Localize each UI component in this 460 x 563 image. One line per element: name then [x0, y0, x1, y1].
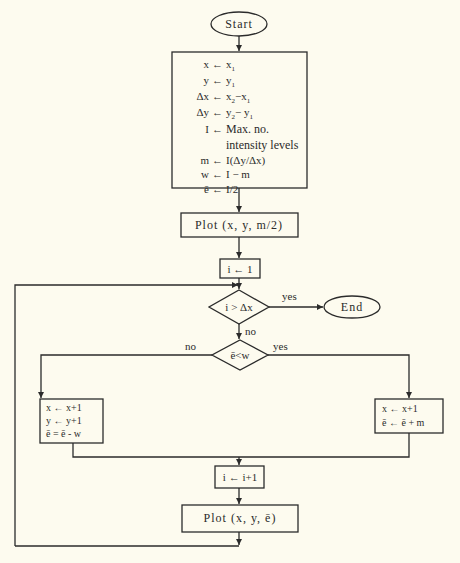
plot-initial-box: Plot (x, y, m/2) [181, 213, 298, 237]
start-label: Start [225, 17, 253, 31]
left-update-box: x ← x+1 y ← y+1 ē = ē - w [40, 399, 103, 443]
decision-loop-label: i > Δx [225, 301, 253, 313]
decision-error-diamond: ē<w [212, 340, 268, 370]
right-line-1: ē ← ē + m [382, 417, 425, 428]
init-line-6-op: ← [212, 154, 223, 166]
decision-loop-diamond: i > Δx [209, 290, 269, 324]
init-line-8-op: ← [212, 183, 223, 195]
left-line-0: x ← x+1 [46, 402, 82, 413]
init-line-5-rhs: intensity levels [226, 138, 299, 152]
plot-loop-box: Plot (x, y, ē) [182, 505, 298, 532]
left-line-1: y ← y+1 [46, 415, 82, 426]
init-line-1-op: ← [212, 74, 223, 86]
init-line-2-lhs: Δx [196, 90, 209, 102]
plot-loop-label: Plot (x, y, ē) [204, 511, 277, 525]
init-line-4-lhs: I [205, 123, 209, 135]
decision-error-no-label: no [185, 340, 197, 352]
init-line-6-rhs: I(Δy/Δx) [226, 154, 266, 167]
init-line-7-op: ← [212, 168, 223, 180]
init-box: x ← x1 y ← y1 Δx ← x2−x1 Δy ← y2− y1 I ←… [172, 52, 307, 195]
init-line-7-rhs: I − m [226, 168, 250, 180]
decision-error-label: ē<w [230, 349, 249, 361]
merge-line [73, 433, 409, 457]
arrow-error-no-to-left [41, 355, 212, 398]
increment-label: i ← i+1 [223, 471, 257, 483]
loop-init-box: i ← 1 [220, 259, 260, 278]
init-line-6-lhs: m [200, 154, 209, 166]
end-terminal: End [324, 296, 380, 318]
flowchart: Start x ← x1 y ← y1 Δx ← x2−x1 Δy ← y2− … [0, 0, 460, 563]
start-terminal: Start [211, 12, 267, 36]
init-line-4-rhs: Max. no. [226, 122, 269, 136]
plot-initial-label: Plot (x, y, m/2) [195, 218, 283, 232]
increment-box: i ← i+1 [215, 466, 264, 488]
decision-loop-yes-label: yes [282, 290, 297, 302]
init-line-7-lhs: w [201, 168, 209, 180]
decision-error-yes-label: yes [273, 340, 288, 352]
init-line-3-lhs: Δy [196, 106, 209, 118]
init-line-0-lhs: x [204, 58, 210, 70]
init-line-2-op: ← [212, 90, 223, 102]
loop-init-label: i ← 1 [227, 263, 252, 275]
init-line-3-op: ← [212, 106, 223, 118]
init-line-1-lhs: y [204, 74, 210, 86]
init-line-0-op: ← [212, 58, 223, 70]
init-line-8-rhs: I/2 [226, 183, 238, 195]
end-label: End [341, 300, 363, 314]
right-line-0: x ← x+1 [382, 403, 418, 414]
left-line-2: ē = ē - w [46, 428, 82, 439]
arrow-error-yes-to-right [268, 355, 409, 398]
init-line-4-op: ← [212, 123, 223, 135]
init-line-8-lhs: ē [204, 183, 209, 195]
decision-loop-no-label: no [245, 325, 257, 337]
right-update-box: x ← x+1 ē ← ē + m [375, 399, 443, 433]
